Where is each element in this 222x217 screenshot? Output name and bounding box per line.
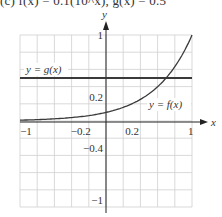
function-plot: x y −1−0.20.2110.2−0.4−1 y = f(x)y = g(x…: [0, 0, 222, 217]
series-g-label: y = g(x): [25, 63, 62, 76]
series-f-label: y = f(x): [148, 98, 182, 111]
x-tick-label: 0.2: [125, 125, 139, 137]
tick-labels: −1−0.20.2110.2−0.4−1: [20, 29, 193, 206]
y-tick-label: −1: [91, 194, 103, 206]
y-axis-label: y: [101, 8, 107, 20]
y-tick-label: 1: [98, 29, 104, 41]
y-axis-arrow-icon: [103, 21, 109, 30]
y-tick-label: −0.4: [83, 142, 103, 154]
x-tick-label: 1: [188, 125, 194, 137]
x-tick-label: −1: [20, 125, 32, 137]
x-axis-label: x: [210, 116, 216, 128]
y-tick-label: 0.2: [89, 91, 103, 103]
x-tick-label: −0.2: [71, 125, 91, 137]
x-axis-arrow-icon: [200, 119, 208, 125]
